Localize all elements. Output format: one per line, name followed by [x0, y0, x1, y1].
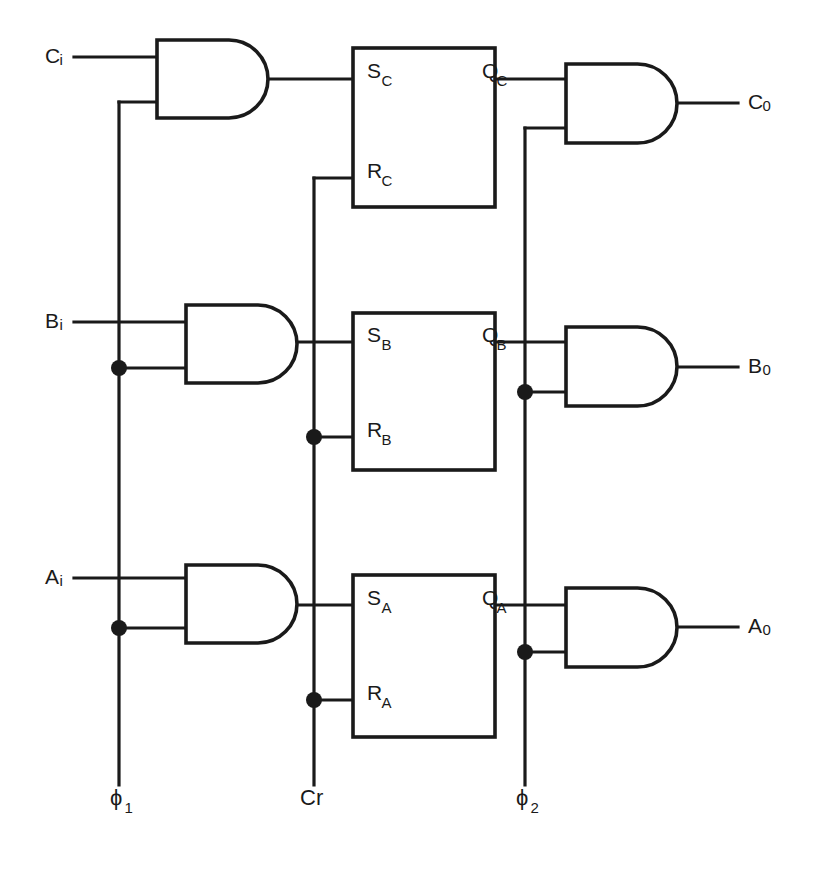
input-label-bi-text: B — [45, 309, 59, 332]
clock-label-cr-text: Cr — [300, 785, 323, 810]
input-label-ai-subscript: i — [60, 572, 63, 589]
pin-label-rb-text: R — [367, 418, 382, 441]
flipflop-boxes — [353, 48, 495, 737]
output-label-bo: B0 — [748, 354, 771, 378]
output-wires — [677, 103, 738, 627]
pin-label-sc-subscript: C — [382, 72, 393, 89]
output-label-bo-subscript: 0 — [763, 361, 771, 378]
output-and-gates — [566, 64, 677, 667]
and-gate-b-output — [566, 327, 677, 406]
pin-label-rc-text: R — [367, 159, 382, 182]
output-label-co-subscript: 0 — [763, 97, 771, 114]
pin-label-sb-text: S — [367, 323, 381, 346]
junction-dot-dot-cr-ra — [306, 692, 322, 708]
output-label-ao-subscript: 0 — [763, 621, 771, 638]
clock-label-phi2-subscript: 2 — [531, 799, 539, 816]
junction-dot-dot-phi2-a — [517, 644, 533, 660]
input-label-ci-text: C — [45, 44, 60, 67]
pin-label-sa-subscript: A — [382, 599, 392, 616]
and-gate-b-input — [186, 305, 297, 383]
input-label-bi: Bi — [45, 309, 63, 333]
pin-label-rb-subscript: B — [382, 431, 392, 448]
input-label-bi-subscript: i — [60, 316, 63, 333]
junction-dot-dot-phi1-b — [111, 360, 127, 376]
input-and-gates — [157, 40, 353, 643]
circuit-diagram-canvas: SCRCQCSBRBQBSARAQA CiBiAiC0B0A0ϕ1Crϕ2 — [0, 0, 819, 870]
input-label-ci: Ci — [45, 44, 63, 68]
pin-label-sb-subscript: B — [382, 336, 392, 353]
and-gate-c-input — [157, 40, 268, 118]
input-label-ai: Ai — [45, 565, 63, 589]
pin-label-sc-text: S — [367, 59, 381, 82]
clock-label-phi2: ϕ2 — [516, 785, 539, 816]
pin-label-ra-text: R — [367, 681, 382, 704]
junction-dot-dot-cr-rb — [306, 429, 322, 445]
and-gate-a-input — [186, 565, 297, 643]
junction-dot-dot-phi1-a — [111, 620, 127, 636]
output-label-ao: A0 — [748, 614, 771, 638]
pin-label-sa-text: S — [367, 586, 381, 609]
pin-label-rc-subscript: C — [382, 172, 393, 189]
circuit-schematic-svg: SCRCQCSBRBQBSARAQA CiBiAiC0B0A0ϕ1Crϕ2 — [0, 0, 819, 870]
input-label-ci-subscript: i — [60, 51, 63, 68]
and-gate-c-output — [566, 64, 677, 143]
input-label-ai-text: A — [45, 565, 59, 588]
output-label-ao-text: A — [748, 614, 762, 637]
output-label-co: C0 — [748, 90, 771, 114]
pin-label-qb-subscript: B — [497, 336, 507, 353]
junction-dot-dot-phi2-b — [517, 384, 533, 400]
output-label-co-text: C — [748, 90, 763, 113]
clock-label-phi1: ϕ1 — [110, 785, 133, 816]
and-gate-a-output — [566, 588, 677, 667]
pin-label-qa-subscript: A — [497, 599, 507, 616]
pin-label-qc-subscript: C — [497, 72, 508, 89]
pin-label-ra-subscript: A — [382, 694, 392, 711]
input-wires — [74, 57, 186, 578]
output-label-bo-text: B — [748, 354, 762, 377]
clock-label-phi1-subscript: 1 — [125, 799, 133, 816]
clock-label-phi2-text: ϕ — [516, 785, 528, 810]
clock-label-cr: Cr — [300, 785, 323, 810]
clock-label-phi1-text: ϕ — [110, 785, 122, 810]
